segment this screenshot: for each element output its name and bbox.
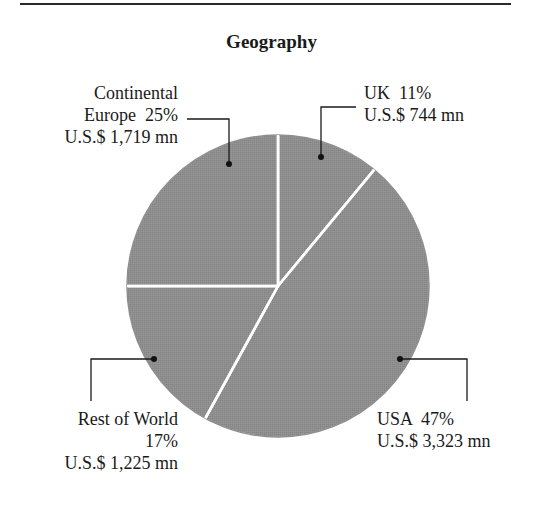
label-usa-line1: USA 47% — [377, 408, 491, 430]
label-uk-line2: U.S.$ 744 mn — [364, 104, 464, 126]
leader-line-usa — [400, 359, 467, 401]
label-row-line3: U.S.$ 1,225 mn — [64, 452, 178, 474]
label-usa: USA 47% U.S.$ 3,323 mn — [377, 408, 491, 452]
leader-dot-usa — [397, 356, 403, 362]
label-europe-line3: U.S.$ 1,719 mn — [64, 126, 178, 148]
leader-dot-uk — [318, 154, 324, 160]
label-europe-line2: Europe 25% — [64, 104, 178, 126]
leader-line-rest-of-world — [91, 359, 154, 401]
slice-continental-europe — [126, 134, 278, 286]
label-uk: UK 11% U.S.$ 744 mn — [364, 82, 464, 126]
label-row-line2: 17% — [64, 430, 178, 452]
label-row-line1: Rest of World — [64, 408, 178, 430]
label-rest-of-world: Rest of World 17% U.S.$ 1,225 mn — [64, 408, 178, 474]
label-uk-line1: UK 11% — [364, 82, 464, 104]
leader-dot-europe — [226, 161, 232, 167]
label-continental-europe: Continental Europe 25% U.S.$ 1,719 mn — [64, 82, 178, 148]
leader-dot-rest-of-world — [151, 356, 157, 362]
label-usa-line2: U.S.$ 3,323 mn — [377, 430, 491, 452]
label-europe-line1: Continental — [64, 82, 178, 104]
